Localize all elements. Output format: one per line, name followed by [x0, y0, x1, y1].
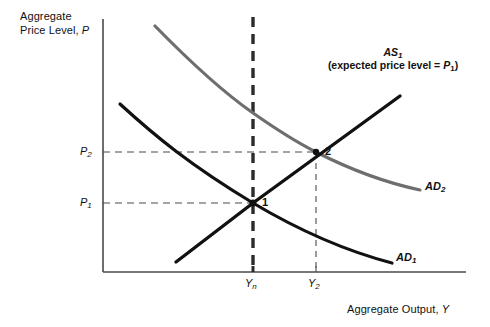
as1-curve-label-sub: 1: [398, 51, 402, 60]
ad1-curve-label-base: AD: [396, 251, 412, 263]
y-axis-title-line2: Price Level, P: [20, 24, 89, 38]
y-axis-title-line2-text: Price Level,: [20, 24, 82, 36]
curve-as1: [176, 96, 400, 262]
equilibrium-point-1-marker: [250, 200, 257, 207]
y-axis-title-variable: P: [82, 24, 89, 36]
x-tick-label-yn: Yn: [245, 277, 257, 291]
ad2-curve-label-base: AD: [425, 180, 441, 192]
x-tick-label-y2: Y2: [308, 277, 320, 291]
y-tick-label-p2: P2: [80, 145, 92, 159]
y-tick-label-p1-sub: 1: [87, 201, 91, 210]
as-ad-figure: Aggregate Price Level, P Aggregate Outpu…: [0, 0, 490, 327]
ad1-curve-label-sub: 1: [412, 256, 416, 265]
as1-expected-price-note: (expected price level = P1): [300, 59, 486, 72]
equilibrium-point-2-label: 2: [325, 145, 331, 159]
y-tick-label-p2-sub: 2: [87, 150, 91, 159]
x-tick-label-y2-sub: 2: [315, 282, 319, 291]
equilibrium-point-1-label: 1: [262, 196, 268, 210]
x-axis-title-text: Aggregate Output,: [347, 303, 442, 315]
x-tick-label-yn-sub: n: [252, 282, 256, 291]
ad1-curve-label: AD1: [396, 251, 416, 265]
curve-ad1: [120, 104, 392, 263]
as1-note-variable-sub: 1: [450, 64, 454, 73]
y-axis-title-line1: Aggregate: [20, 10, 89, 24]
as1-curve-annotation: AS1 (expected price level = P1): [300, 46, 486, 72]
as1-curve-label: AS1: [300, 46, 486, 59]
as1-note-suffix: ): [455, 59, 459, 71]
x-axis-title-variable: Y: [442, 303, 449, 315]
equilibrium-point-2-marker: [313, 149, 319, 155]
x-axis-title: Aggregate Output, Y: [347, 303, 449, 317]
y-tick-label-p1: P1: [80, 196, 92, 210]
as1-note-prefix: (expected price level =: [328, 59, 443, 71]
as1-curve-label-base: AS: [383, 46, 398, 58]
y-axis-title: Aggregate Price Level, P: [20, 10, 89, 38]
ad2-curve-label-sub: 2: [441, 185, 445, 194]
ad2-curve-label: AD2: [425, 180, 445, 194]
